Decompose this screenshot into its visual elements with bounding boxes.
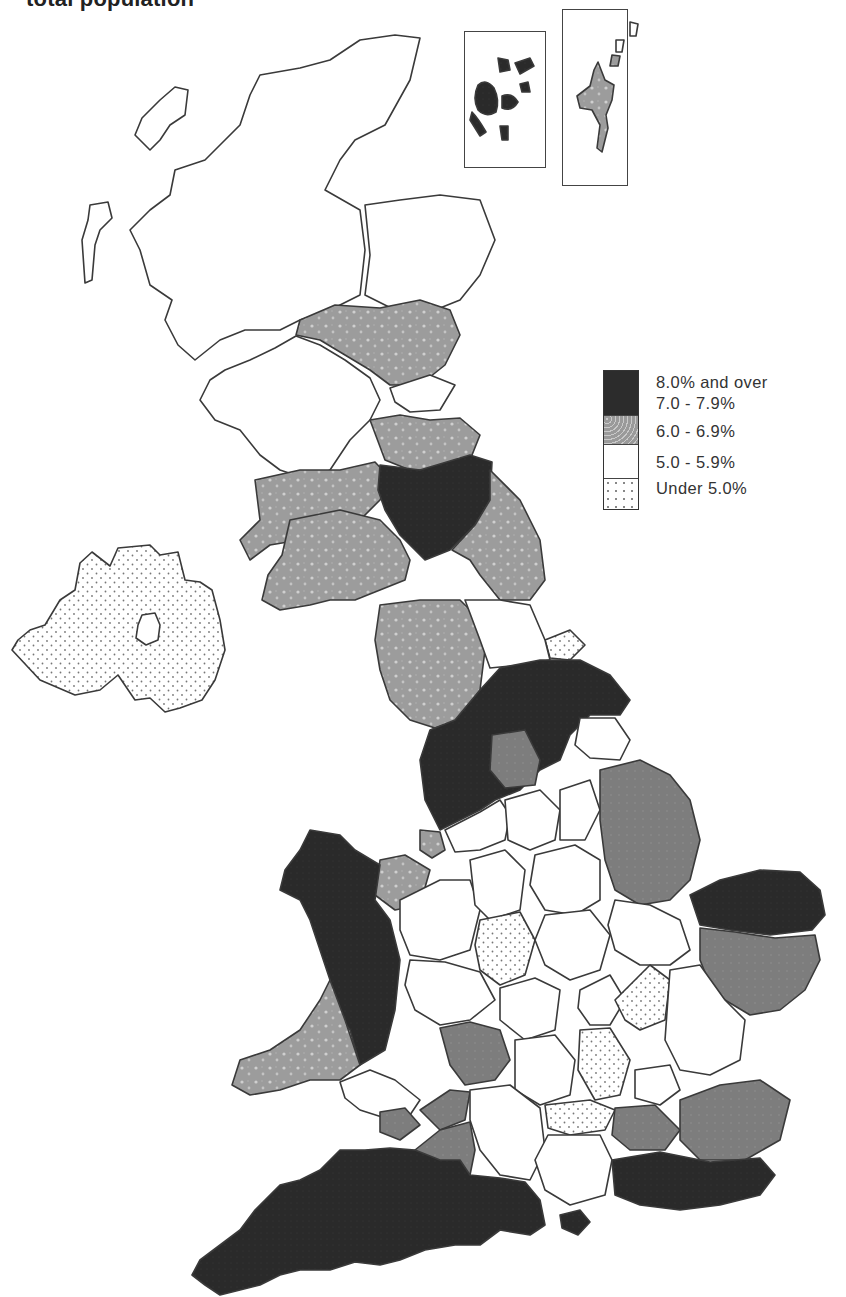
region-gwent <box>380 1108 420 1140</box>
region-hertfordshire <box>615 965 670 1030</box>
region-western-isles-south <box>82 202 112 283</box>
region-merseyside <box>420 830 445 858</box>
legend-labels: 8.0% and over 7.0 - 7.9% 6.0 - 6.9% 5.0 … <box>656 376 768 499</box>
legend-swatch-5-to-5-9 <box>604 445 638 479</box>
region-western-isles <box>135 87 188 150</box>
shetland-islands <box>577 22 638 152</box>
region-oxfordshire <box>515 1035 575 1105</box>
legend-label-7-to-7-9: 7.0 - 7.9% <box>656 393 768 414</box>
region-west-midlands <box>475 912 535 985</box>
region-buckinghamshire <box>578 1028 630 1100</box>
region-northern-ireland <box>12 545 225 712</box>
orkney-islands <box>470 58 534 140</box>
region-warwickshire <box>500 978 560 1040</box>
legend-swatch-8-plus <box>604 371 638 416</box>
region-isle-of-wight <box>560 1210 590 1235</box>
legend-label-8-plus: 8.0% and over <box>656 372 768 393</box>
region-greater-london <box>635 1065 680 1105</box>
region-cambridgeshire <box>608 900 690 965</box>
legend-swatch-6-to-6-9 <box>604 416 638 445</box>
region-devon-cornwall-dorset <box>192 1148 545 1295</box>
region-northamptonshire <box>535 910 610 980</box>
region-cleveland <box>545 630 585 660</box>
region-nottinghamshire <box>560 780 600 840</box>
region-berkshire <box>545 1100 615 1135</box>
region-grampian <box>365 195 495 310</box>
region-gloucestershire <box>440 1022 510 1085</box>
legend-swatches <box>603 370 639 510</box>
legend-label-5-to-5-9: 5.0 - 5.9% <box>656 452 768 473</box>
legend-label-6-to-6-9: 6.0 - 6.9% <box>656 421 768 442</box>
legend-swatch-under-5 <box>604 479 638 509</box>
region-surrey <box>612 1105 680 1150</box>
region-humberside <box>575 718 630 760</box>
region-kent <box>680 1080 790 1160</box>
legend-label-under-5: Under 5.0% <box>656 478 768 499</box>
region-derbyshire <box>505 790 560 850</box>
region-lincolnshire <box>600 760 700 905</box>
region-hampshire <box>535 1135 612 1205</box>
uk-choropleth-map <box>0 0 846 1297</box>
region-sussex <box>612 1152 775 1210</box>
region-norfolk <box>690 870 825 935</box>
region-leicestershire <box>530 845 600 915</box>
